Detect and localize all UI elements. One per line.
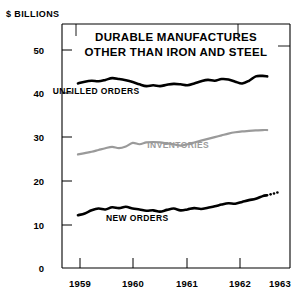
y-tick-label-50: 50 xyxy=(33,45,44,56)
x-axis: 1959 1960 1961 1962 1963 xyxy=(69,258,291,289)
x-tick-label-1961: 1961 xyxy=(176,278,198,289)
y-tick-label-10: 10 xyxy=(33,220,44,231)
y-tick-label-0: 0 xyxy=(39,263,44,274)
series-label-inventories: INVENTORIES xyxy=(147,140,209,150)
series-label-layer: UNFILLED ORDERSINVENTORIESNEW ORDERS xyxy=(53,86,209,223)
x-tick-label-1962: 1962 xyxy=(229,278,251,289)
chart-container: $ BILLIONS 50 40 30 20 10 0 xyxy=(0,0,300,303)
chart-title: DURABLE MANUFACTURES OTHER THAN IRON AND… xyxy=(85,31,268,58)
y-axis: 50 40 30 20 10 0 xyxy=(33,45,72,274)
y-tick-label-30: 30 xyxy=(33,132,44,143)
projection-dot xyxy=(269,193,272,196)
y-tick-label-20: 20 xyxy=(33,176,44,187)
x-tick-label-1959: 1959 xyxy=(69,278,91,289)
series-line-unfilled-orders xyxy=(78,76,267,86)
projection-dot xyxy=(273,192,276,195)
series-label-new-orders: NEW ORDERS xyxy=(106,213,169,223)
y-tick-label-40: 40 xyxy=(33,88,44,99)
series-label-unfilled-orders: UNFILLED ORDERS xyxy=(53,86,140,96)
y-axis-unit-label: $ BILLIONS xyxy=(6,9,60,19)
chart-title-line-2: OTHER THAN IRON AND STEEL xyxy=(85,46,268,58)
series-projection-dots-new-orders xyxy=(269,191,278,195)
chart-svg: $ BILLIONS 50 40 30 20 10 0 xyxy=(0,0,300,303)
x-tick-label-1963: 1963 xyxy=(269,278,291,289)
x-tick-label-1960: 1960 xyxy=(122,278,144,289)
projection-dot xyxy=(276,191,279,194)
chart-title-line-1: DURABLE MANUFACTURES xyxy=(95,31,257,43)
